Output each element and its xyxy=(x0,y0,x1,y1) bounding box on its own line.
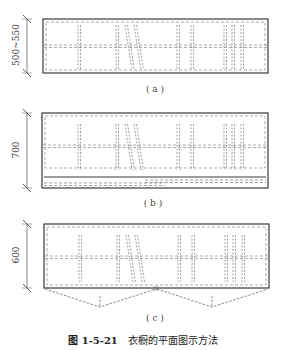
figure-caption: 图 1-5-21衣橱的平面图示方法 xyxy=(0,332,286,347)
dimension-label-c: 600 xyxy=(11,239,21,271)
panel-label-c: ( c ) xyxy=(135,313,175,323)
panel-label-a: ( a ) xyxy=(135,84,175,94)
figure-number: 图 1-5-21 xyxy=(68,335,118,346)
panel-a-drawing xyxy=(22,15,268,77)
dimension-label-b: 700 xyxy=(11,134,21,166)
dimension-label-a: 500~550 xyxy=(11,23,21,67)
figure-title: 衣橱的平面图示方法 xyxy=(128,335,218,346)
panel-b-drawing xyxy=(22,109,268,192)
panel-label-b: ( b ) xyxy=(133,198,173,208)
panel-c-drawing xyxy=(22,220,269,307)
wardrobe-plan-figure xyxy=(0,0,286,350)
